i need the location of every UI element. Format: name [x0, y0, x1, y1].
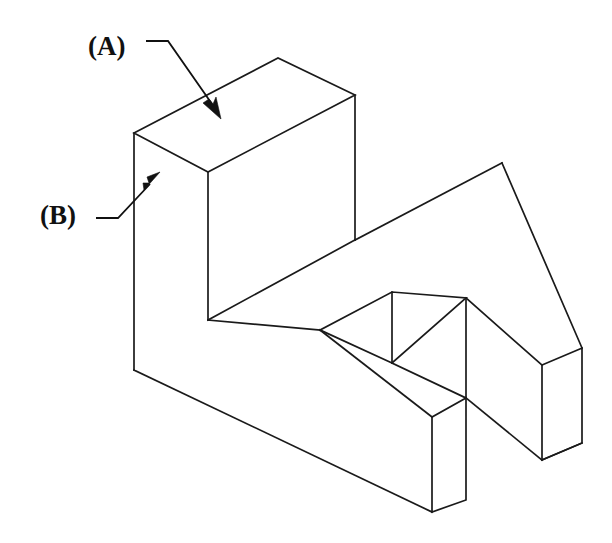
callout-a-leader-line: [146, 41, 212, 104]
isometric-drawing-canvas: (A) (B): [0, 0, 612, 543]
isometric-solid-figure: (A) (B): [0, 0, 612, 543]
solid-faces-group: [134, 58, 582, 512]
face-front-prong-front: [134, 320, 466, 512]
callout-a-label: (A): [88, 31, 125, 61]
callout-b-label: (B): [40, 200, 76, 230]
